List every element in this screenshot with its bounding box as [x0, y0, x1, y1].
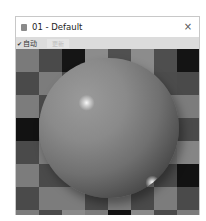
checker-cell: [177, 118, 199, 141]
checker-cell: [108, 210, 131, 215]
checker-cell: [16, 95, 39, 118]
checker-cell: [131, 210, 154, 215]
auto-label: 自动: [23, 38, 37, 48]
checker-cell: [154, 187, 177, 210]
checker-cell: [154, 210, 177, 215]
checker-cell: [177, 95, 199, 118]
checker-cell: [177, 141, 199, 164]
checker-cell: [39, 49, 62, 72]
checker-cell: [16, 164, 39, 187]
checker-cell: [85, 210, 108, 215]
checker-cell: [39, 210, 62, 215]
toolbar: ✔ 自动 更新: [16, 37, 199, 49]
material-preview-viewport[interactable]: [16, 49, 199, 215]
window-title: 01 - Default: [32, 22, 82, 32]
auto-update-checkbox[interactable]: ✔ 自动: [17, 38, 37, 48]
checker-cell: [177, 164, 199, 187]
checker-cell: [62, 210, 85, 215]
checker-cell: [177, 49, 199, 72]
checker-cell: [154, 49, 177, 72]
checker-cell: [177, 187, 199, 210]
checker-cell: [16, 187, 39, 210]
checker-cell: [16, 49, 39, 72]
checker-cell: [16, 118, 39, 141]
material-preview-window: 01 - Default × ✔ 自动 更新: [15, 16, 200, 215]
update-button[interactable]: 更新: [47, 39, 69, 48]
checker-cell: [16, 72, 39, 95]
checker-cell: [16, 141, 39, 164]
close-button[interactable]: ×: [182, 20, 194, 33]
checker-cell: [177, 210, 199, 215]
checker-cell: [177, 72, 199, 95]
title-bar[interactable]: 01 - Default ×: [16, 17, 199, 37]
preview-sphere: [39, 58, 179, 198]
material-slot-icon: [21, 24, 27, 31]
checker-cell: [39, 187, 62, 210]
checkmark-icon: ✔: [17, 40, 22, 47]
checker-cell: [16, 210, 39, 215]
